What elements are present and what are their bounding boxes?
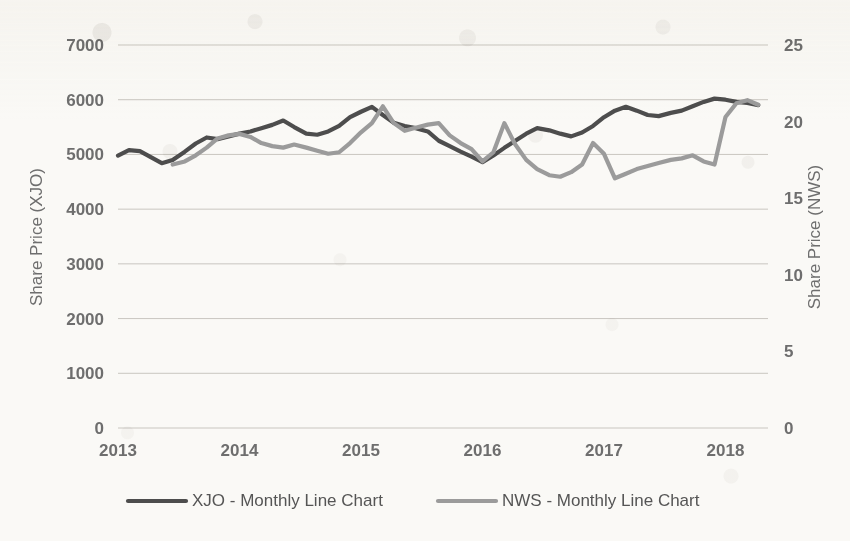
left-tick-label: 7000 <box>66 36 104 55</box>
left-tick-label: 5000 <box>66 145 104 164</box>
x-tick-label: 2015 <box>342 441 380 460</box>
left-axis-title: Share Price (XJO) <box>27 168 46 306</box>
legend-label-nws: NWS - Monthly Line Chart <box>502 491 700 510</box>
left-tick-label: 0 <box>95 419 104 438</box>
series-line-xjo <box>118 99 758 164</box>
x-tick-label: 2017 <box>585 441 623 460</box>
right-axis-title: Share Price (NWS) <box>805 165 824 310</box>
x-tick-label: 2014 <box>221 441 259 460</box>
right-tick-label: 10 <box>784 266 803 285</box>
chart-legend: XJO - Monthly Line ChartNWS - Monthly Li… <box>128 491 700 510</box>
data-series-group <box>118 99 758 179</box>
right-tick-label: 20 <box>784 113 803 132</box>
x-tick-label: 2018 <box>707 441 745 460</box>
left-tick-label: 3000 <box>66 255 104 274</box>
x-tick-label: 2013 <box>99 441 137 460</box>
gridlines-group <box>118 45 768 428</box>
left-tick-label: 2000 <box>66 310 104 329</box>
x-tick-label: 2016 <box>464 441 502 460</box>
x-axis-tick-labels: 201320142015201620172018 <box>99 441 744 460</box>
left-axis-tick-labels: 01000200030004000500060007000 <box>66 36 104 438</box>
right-tick-label: 5 <box>784 342 793 361</box>
right-tick-label: 25 <box>784 36 803 55</box>
right-axis-tick-labels: 0510152025 <box>784 36 803 438</box>
right-tick-label: 0 <box>784 419 793 438</box>
share-price-line-chart: 01000200030004000500060007000 0510152025… <box>0 0 850 541</box>
right-tick-label: 15 <box>784 189 803 208</box>
legend-label-xjo: XJO - Monthly Line Chart <box>192 491 383 510</box>
left-tick-label: 6000 <box>66 91 104 110</box>
left-tick-label: 4000 <box>66 200 104 219</box>
left-tick-label: 1000 <box>66 364 104 383</box>
chart-canvas: 01000200030004000500060007000 0510152025… <box>0 0 850 541</box>
